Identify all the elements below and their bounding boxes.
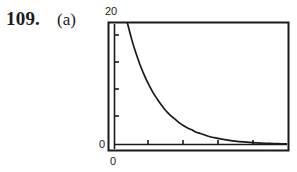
figure-container: 109. (a) <box>0 0 297 172</box>
plot-frame <box>109 23 289 151</box>
decay-curve-chart <box>96 2 297 172</box>
problem-number: 109. <box>6 9 40 28</box>
y-axis-max-label: 20 <box>105 6 117 17</box>
x-axis-min-label: 0 <box>110 156 116 167</box>
part-label: (a) <box>57 11 76 28</box>
plot-area: 20 0 0 <box>96 2 297 172</box>
y-axis-min-label: 0 <box>99 139 105 150</box>
